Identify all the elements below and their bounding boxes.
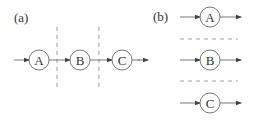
node-a: A <box>200 7 220 27</box>
diagram-canvas: (a) A B C (b) <box>0 0 257 122</box>
svg-text:B: B <box>206 53 215 68</box>
panel-a: (a) A B C <box>14 10 140 87</box>
svg-text:A: A <box>205 10 215 25</box>
node-c: C <box>112 50 132 70</box>
svg-text:C: C <box>118 53 127 68</box>
panel-b-label: (b) <box>153 9 168 24</box>
svg-text:C: C <box>206 96 215 111</box>
node-b: B <box>70 50 90 70</box>
panel-b: (b) A B C <box>138 7 241 113</box>
node-a: A <box>29 50 49 70</box>
panel-a-label: (a) <box>14 10 28 25</box>
node-c: C <box>200 93 220 113</box>
svg-text:A: A <box>34 53 44 68</box>
svg-text:B: B <box>76 53 85 68</box>
node-b: B <box>200 50 220 70</box>
